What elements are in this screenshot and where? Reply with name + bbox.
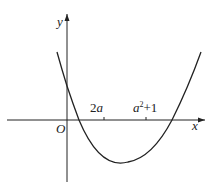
- tick-label-a2-plus-1: a2+1: [133, 100, 157, 115]
- origin-label: O: [56, 121, 66, 136]
- parabola-curve: [57, 52, 201, 163]
- y-axis-label: y: [55, 14, 63, 29]
- x-axis-label: x: [191, 118, 198, 133]
- parabola-diagram: y O x 2a a2+1: [0, 0, 219, 189]
- tick-label-2a: 2a: [90, 100, 104, 115]
